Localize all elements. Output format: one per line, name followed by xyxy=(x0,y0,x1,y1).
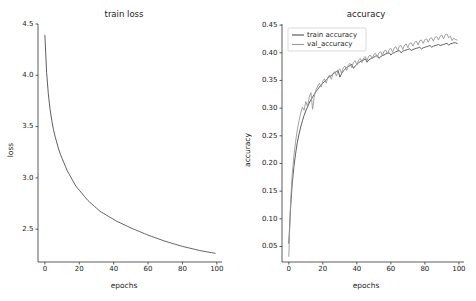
left-plot-xtick: 0 xyxy=(43,265,47,273)
left-plot-xtick: 40 xyxy=(109,265,118,273)
left-y-axis-label: loss xyxy=(6,143,15,158)
left-chart-title: train loss xyxy=(105,9,144,19)
right-chart-title: accuracy xyxy=(347,9,385,19)
left-plot-ytick: 4.0 xyxy=(22,71,33,79)
legend-label-0: train accuracy xyxy=(307,31,357,39)
left-x-axis-label: epochs xyxy=(111,281,138,290)
right-plot-xtick: 80 xyxy=(420,265,429,273)
left-plot-ytick: 2.5 xyxy=(22,225,33,233)
right-plot-area: 0.050.100.150.200.250.300.350.400.450204… xyxy=(262,21,466,273)
right-plot-ytick: 0.35 xyxy=(262,76,278,84)
right-plot-xtick: 20 xyxy=(318,265,327,273)
left-plot-xtick: 60 xyxy=(144,265,153,273)
legend-label-1: val_accuracy xyxy=(307,40,352,48)
series-line-1 xyxy=(289,34,457,257)
right-plot-xtick: 100 xyxy=(452,265,465,273)
right-plot-ytick: 0.20 xyxy=(262,159,278,167)
right-plot-ytick: 0.15 xyxy=(262,187,278,195)
right-x-axis-label: epochs xyxy=(353,281,380,290)
right-plot-ytick: 0.30 xyxy=(262,104,278,112)
chart-panel-accuracy: accuracy 0.050.100.150.200.250.300.350.4… xyxy=(238,0,476,301)
right-plot-xtick: 0 xyxy=(287,265,291,273)
chart-panel-train-loss: train loss 2.53.03.54.04.5020406080100 e… xyxy=(0,0,238,301)
right-plot-ytick: 0.25 xyxy=(262,132,278,140)
right-plot-ytick: 0.10 xyxy=(262,215,278,223)
accuracy-svg: accuracy 0.050.100.150.200.250.300.350.4… xyxy=(238,0,476,301)
series-line-0 xyxy=(45,35,215,253)
right-plot-xtick: 60 xyxy=(386,265,395,273)
right-plot-xtick: 40 xyxy=(352,265,361,273)
right-plot-ytick: 0.05 xyxy=(262,242,278,250)
accuracy-legend[interactable]: train accuracyval_accuracy xyxy=(288,28,366,51)
left-plot-ytick: 3.5 xyxy=(22,122,33,130)
left-plot-ytick: 4.5 xyxy=(22,20,33,28)
figure-canvas: train loss 2.53.03.54.04.5020406080100 e… xyxy=(0,0,476,301)
left-plot-ytick: 3.0 xyxy=(22,174,33,182)
left-plot-xtick: 20 xyxy=(75,265,84,273)
left-plot-xtick: 100 xyxy=(210,265,223,273)
left-plot-area: 2.53.03.54.04.5020406080100 xyxy=(22,20,223,273)
left-plot-xtick: 80 xyxy=(178,265,187,273)
series-line-0 xyxy=(289,43,457,243)
right-plot-ytick: 0.45 xyxy=(262,21,278,29)
right-plot-ytick: 0.40 xyxy=(262,49,278,57)
right-y-axis-label: accuracy xyxy=(243,133,252,167)
train-loss-svg: train loss 2.53.03.54.04.5020406080100 e… xyxy=(0,0,238,301)
